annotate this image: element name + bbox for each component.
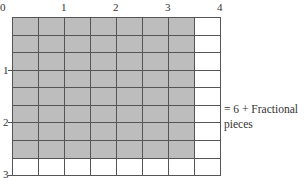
- annotation-line-2: pieces: [224, 117, 298, 132]
- annotation: = 6 + Fractional pieces: [224, 102, 298, 132]
- grid: [0, 0, 305, 181]
- axis-ticks: [8, 71, 12, 176]
- annotation-line-1: = 6 + Fractional: [224, 102, 298, 117]
